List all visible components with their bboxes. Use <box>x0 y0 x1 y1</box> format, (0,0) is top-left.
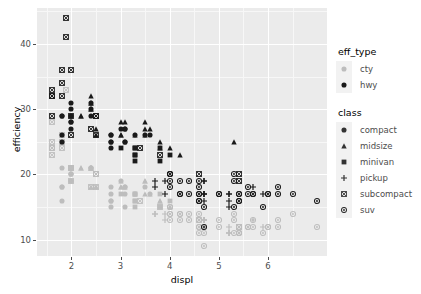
data-point <box>157 198 163 204</box>
x-tick-mark <box>170 257 171 260</box>
data-point <box>152 211 158 217</box>
gridline-minor-x <box>243 8 244 256</box>
data-point <box>186 217 192 223</box>
x-tick-mark <box>219 257 220 260</box>
data-point <box>88 184 94 190</box>
legend-label-cty: cty <box>360 64 373 74</box>
data-point <box>49 145 55 151</box>
legend-item-compact[interactable]: compact <box>336 122 421 138</box>
legend-item-midsize[interactable]: midsize <box>336 138 421 154</box>
data-point <box>88 100 94 106</box>
data-point <box>275 217 281 223</box>
data-point <box>177 211 183 217</box>
data-point <box>157 198 163 204</box>
legend-item-hwy[interactable]: hwy <box>336 77 421 93</box>
data-point <box>88 126 94 132</box>
data-point <box>88 165 94 171</box>
data-point <box>88 165 94 171</box>
data-point <box>157 158 163 164</box>
data-point <box>152 178 158 184</box>
gridline-minor-y <box>37 142 327 143</box>
data-point <box>108 132 114 138</box>
gridline-major-x <box>268 8 269 256</box>
legend-item-pickup[interactable]: pickup <box>336 170 421 186</box>
legend-eff_type: eff_typectyhwy <box>336 46 421 93</box>
data-point <box>122 184 128 190</box>
data-point <box>88 165 94 171</box>
data-point <box>231 230 237 236</box>
data-point <box>226 230 232 236</box>
data-point <box>157 145 163 151</box>
data-point <box>226 230 232 236</box>
data-point <box>88 100 94 106</box>
legend-item-subcompact[interactable]: subcompact <box>336 186 421 202</box>
legend-label-suv: suv <box>360 205 375 215</box>
data-point <box>137 198 143 204</box>
data-point <box>231 217 237 223</box>
data-point <box>59 67 65 73</box>
data-point <box>250 224 256 230</box>
legend-item-suv[interactable]: suv <box>336 202 421 218</box>
legend-label-compact: compact <box>360 125 397 135</box>
chart-root: 23456 10203040 displ efficiency eff_type… <box>0 0 421 294</box>
gridline-minor-x <box>145 8 146 256</box>
data-point <box>275 184 281 190</box>
plot-panel <box>37 8 327 256</box>
data-point <box>88 165 94 171</box>
legend-item-minivan[interactable]: minivan <box>336 154 421 170</box>
gridline-minor-y <box>37 77 327 78</box>
data-point <box>78 165 84 171</box>
data-point <box>157 152 163 158</box>
data-point <box>236 198 242 204</box>
data-point <box>250 217 256 223</box>
data-point <box>63 87 69 93</box>
data-point <box>59 132 65 138</box>
data-point <box>162 178 168 184</box>
data-point <box>132 152 138 158</box>
data-point <box>88 165 94 171</box>
legend-key-minivan-icon <box>336 154 352 170</box>
data-point <box>132 191 138 197</box>
data-point <box>275 224 281 230</box>
data-point <box>59 145 65 151</box>
data-point <box>236 230 242 236</box>
data-point <box>152 184 158 190</box>
data-point <box>201 230 207 236</box>
data-point <box>196 191 202 197</box>
data-point <box>122 191 128 197</box>
gridline-major-x <box>219 8 220 256</box>
data-point <box>59 132 65 138</box>
data-point <box>250 184 256 190</box>
legend-label-minivan: minivan <box>360 157 394 167</box>
gridline-major-x <box>170 8 171 256</box>
y-tick-mark <box>33 44 36 45</box>
gridline-minor-x <box>194 8 195 256</box>
data-point <box>49 93 55 99</box>
data-point <box>49 152 55 158</box>
data-point <box>201 217 207 223</box>
data-point <box>162 217 168 223</box>
data-point <box>314 224 320 230</box>
data-point <box>132 191 138 197</box>
legend-key-suv-icon <box>336 202 352 218</box>
data-point <box>63 15 69 21</box>
y-tick-label: 20 <box>11 169 31 179</box>
legend-item-cty[interactable]: cty <box>336 61 421 77</box>
data-point <box>59 184 65 190</box>
gridline-major-y <box>37 109 327 110</box>
x-tick-mark <box>268 257 269 260</box>
data-point <box>226 230 232 236</box>
data-point <box>177 191 183 197</box>
data-point <box>250 191 256 197</box>
data-point <box>59 93 65 99</box>
x-tick-label: 6 <box>260 261 276 271</box>
x-tick-label: 3 <box>113 261 129 271</box>
data-point <box>201 198 207 204</box>
data-point <box>157 191 163 197</box>
data-point <box>147 191 153 197</box>
data-point <box>196 198 202 204</box>
data-point <box>177 152 183 158</box>
y-tick-label: 10 <box>11 235 31 245</box>
data-point <box>275 191 281 197</box>
data-point <box>177 217 183 223</box>
